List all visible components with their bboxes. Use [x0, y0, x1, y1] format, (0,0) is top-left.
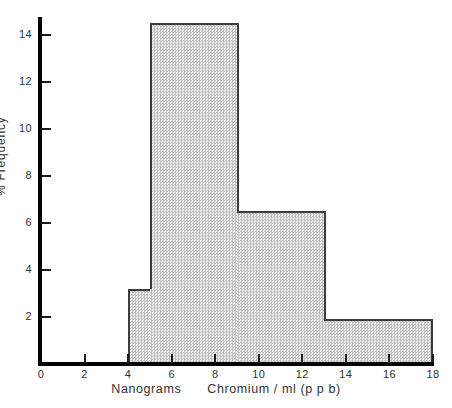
y-axis-tick-label: 10 — [6, 122, 32, 134]
histogram-bar — [324, 319, 433, 364]
x-axis-tick-label: 8 — [200, 368, 230, 380]
histogram-bar-side-edge — [150, 23, 152, 289]
x-tick-label-origin: 0 — [26, 368, 56, 380]
y-axis-tick-label: 6 — [6, 216, 32, 228]
y-axis-tick — [42, 128, 51, 130]
x-axis-tick — [258, 354, 260, 363]
y-axis-tick — [42, 175, 51, 177]
x-axis-tick — [345, 354, 347, 363]
y-axis-tick-label: 4 — [6, 263, 32, 275]
histogram-bar-side-edge — [324, 211, 326, 319]
x-axis-tick — [214, 354, 216, 363]
histogram-bar-top-edge — [128, 289, 150, 291]
histogram-bar — [128, 289, 150, 364]
y-axis-tick — [42, 269, 51, 271]
x-axis-line — [38, 362, 434, 366]
x-axis-tick-label: 2 — [70, 368, 100, 380]
x-axis-tick — [171, 354, 173, 363]
x-axis-tick — [301, 354, 303, 363]
y-axis-title: % Frequency — [0, 117, 8, 197]
x-axis-tick-label: 6 — [157, 368, 187, 380]
y-axis-tick — [42, 316, 51, 318]
x-axis-tick — [84, 354, 86, 363]
x-axis-tick — [388, 354, 390, 363]
histogram-bar-top-edge — [150, 23, 237, 25]
x-axis-tick-label: 16 — [374, 368, 404, 380]
y-axis-tick-label: 12 — [6, 75, 32, 87]
x-axis-tick-label: 12 — [287, 368, 317, 380]
histogram-bar — [237, 211, 324, 364]
y-axis-tick — [42, 34, 51, 36]
x-axis-title-units: Nanograms — [111, 382, 181, 396]
histogram-chart: 2468101214 24681012141618 0 % Frequency … — [0, 0, 452, 408]
y-axis-tick — [42, 81, 51, 83]
x-axis-tick-label: 14 — [331, 368, 361, 380]
y-axis-tick-label: 8 — [6, 169, 32, 181]
x-axis-tick — [127, 354, 129, 363]
histogram-bar-side-edge — [237, 23, 239, 211]
y-axis-tick-label: 2 — [6, 310, 32, 322]
x-axis-title-main: Chromium / ml (p p b) — [207, 382, 340, 396]
y-axis-line — [38, 17, 42, 366]
histogram-bar — [150, 23, 237, 364]
histogram-bar-top-edge — [324, 319, 433, 321]
y-axis-tick-label: 14 — [6, 28, 32, 40]
histogram-bar-side-edge — [128, 289, 130, 364]
plot-bars — [0, 0, 452, 408]
x-axis-tick-label: 18 — [418, 368, 448, 380]
x-axis-tick-label: 10 — [244, 368, 274, 380]
x-axis-tick — [432, 354, 434, 363]
y-axis-tick — [42, 222, 51, 224]
histogram-bar-top-edge — [237, 211, 324, 213]
x-axis-tick-label: 4 — [113, 368, 143, 380]
x-axis-title: NanogramsChromium / ml (p p b) — [0, 382, 452, 396]
